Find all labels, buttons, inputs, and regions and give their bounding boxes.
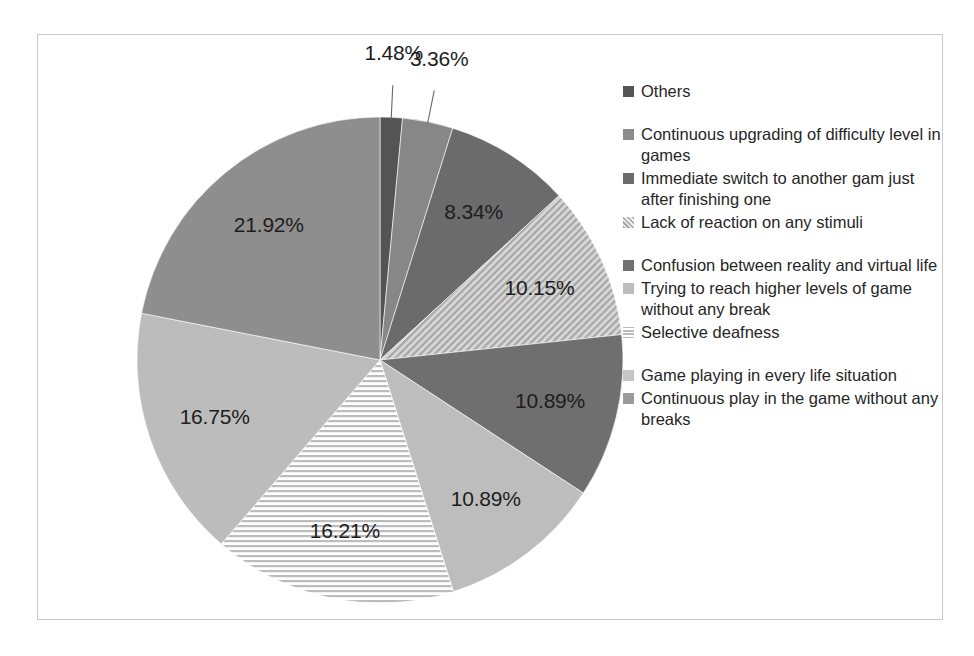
legend-swatch-icon: [623, 283, 634, 294]
legend-item[interactable]: Selective deafness: [623, 322, 941, 343]
legend-item[interactable]: Trying to reach higher levels of game wi…: [623, 278, 941, 320]
legend-item-label: Selective deafness: [641, 322, 780, 343]
legend-item-label: Game playing in every life situation: [641, 365, 897, 386]
legend-swatch-icon: [623, 370, 634, 381]
pie-slice-label: 10.15%: [504, 276, 574, 300]
legend-item[interactable]: Lack of reaction on any stimuli: [623, 212, 941, 233]
legend-swatch-icon: [623, 327, 634, 338]
pie-slice-label: 8.34%: [444, 200, 503, 224]
pie-slice-label: 10.89%: [515, 389, 585, 413]
legend-swatch-icon: [623, 129, 634, 140]
legend-swatch-icon: [623, 260, 634, 271]
legend-item[interactable]: Continuous play in the game without any …: [623, 388, 941, 430]
pie-slice-label: 16.21%: [310, 519, 380, 543]
legend-item[interactable]: Game playing in every life situation: [623, 365, 941, 386]
pie-slice-label: 3.36%: [410, 47, 469, 71]
legend-item-label: Trying to reach higher levels of game wi…: [641, 278, 941, 320]
pie-slice-label: 10.89%: [451, 487, 521, 511]
legend-item-label: Continuous upgrading of difficulty level…: [641, 124, 941, 166]
legend-item-label: Lack of reaction on any stimuli: [641, 212, 863, 233]
pie-slice-label: 21.92%: [234, 213, 304, 237]
chart-frame: 1.48%3.36%8.34%10.15%10.89%10.89%16.21%1…: [37, 34, 943, 620]
legend-item[interactable]: Continuous upgrading of difficulty level…: [623, 124, 941, 166]
legend-item-label: Confusion between reality and virtual li…: [641, 255, 937, 276]
legend-swatch-icon: [623, 86, 634, 97]
legend-item[interactable]: Confusion between reality and virtual li…: [623, 255, 941, 276]
pie-slice-label: 16.75%: [180, 405, 250, 429]
legend-item-label: Others: [641, 81, 691, 102]
pie-slices: [137, 117, 623, 603]
legend-item-label: Immediate switch to another gam just aft…: [641, 168, 941, 210]
legend-swatch-icon: [623, 393, 634, 404]
leader-line: [391, 85, 393, 119]
legend-swatch-icon: [623, 173, 634, 184]
leader-line: [428, 90, 435, 123]
pie-chart-area: 1.48%3.36%8.34%10.15%10.89%10.89%16.21%1…: [38, 35, 638, 621]
legend-swatch-icon: [623, 217, 634, 228]
legend-item[interactable]: Others: [623, 81, 941, 102]
legend-item[interactable]: Immediate switch to another gam just aft…: [623, 168, 941, 210]
legend-item-label: Continuous play in the game without any …: [641, 388, 941, 430]
chart-legend: OthersContinuous upgrading of difficulty…: [623, 81, 941, 432]
